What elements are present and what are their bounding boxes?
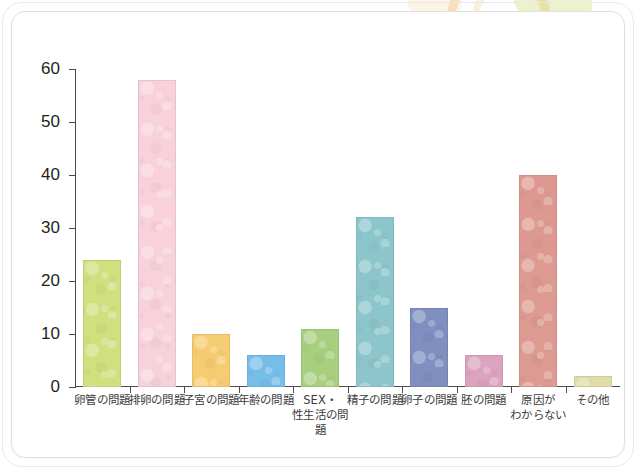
bar-texture: [193, 335, 229, 386]
bar-texture: [248, 356, 284, 386]
bar-texture: [357, 218, 393, 386]
bar-texture: [302, 330, 338, 386]
x-tick-mark: [402, 386, 403, 393]
bar-texture: [139, 81, 175, 386]
x-tick-mark: [566, 386, 567, 393]
y-tick-label: 0: [26, 378, 60, 395]
bar-series: [75, 69, 620, 387]
bar[interactable]: [519, 175, 557, 387]
bar-texture: [411, 309, 447, 387]
y-tick-mark: [69, 387, 76, 388]
bar[interactable]: [356, 217, 394, 387]
x-label-line: 性生活の問題: [287, 408, 354, 438]
bar[interactable]: [301, 329, 339, 387]
bar-chart-plot: 6050403020100 卵管の問題排卵の問題子宮の問題年齢の問題SEX・性生…: [12, 12, 624, 457]
y-tick-label: 30: [26, 219, 60, 236]
x-tick-mark: [239, 386, 240, 393]
bar[interactable]: [465, 355, 503, 387]
x-label-line: その他: [560, 393, 626, 408]
chart-card: 6050403020100 卵管の問題排卵の問題子宮の問題年齢の問題SEX・性生…: [11, 11, 625, 458]
bar-texture: [520, 176, 556, 386]
bar[interactable]: [410, 308, 448, 388]
x-tick-mark: [511, 386, 512, 393]
x-tick-mark: [457, 386, 458, 393]
x-tick-mark: [184, 386, 185, 393]
bar[interactable]: [83, 260, 121, 387]
bar[interactable]: [574, 376, 612, 387]
x-tick-mark: [348, 386, 349, 393]
bar-texture: [575, 377, 611, 386]
x-axis-labels: 卵管の問題排卵の問題子宮の問題年齢の問題SEX・性生活の問題精子の問題卵子の問題…: [75, 393, 620, 449]
y-tick-label: 20: [26, 272, 60, 289]
bar[interactable]: [192, 334, 230, 387]
y-tick-label: 50: [26, 113, 60, 130]
bar[interactable]: [247, 355, 285, 387]
y-tick-label: 40: [26, 166, 60, 183]
y-tick-label: 10: [26, 325, 60, 342]
x-tick-mark: [293, 386, 294, 393]
bar-texture: [466, 356, 502, 386]
x-tick-mark: [130, 386, 131, 393]
bar[interactable]: [138, 80, 176, 387]
bar-texture: [84, 261, 120, 386]
y-tick-label: 60: [26, 60, 60, 77]
x-label-line: わからない: [505, 408, 572, 423]
x-axis-label: その他: [560, 393, 626, 408]
